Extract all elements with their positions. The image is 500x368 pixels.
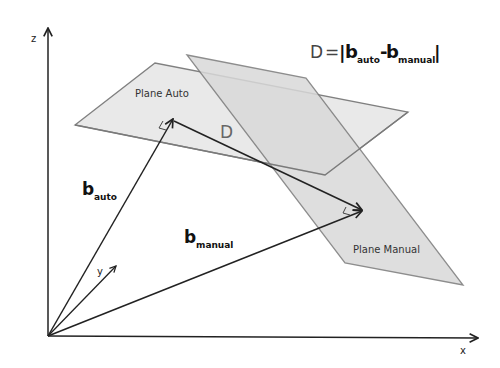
b-manual-vector: [48, 211, 362, 336]
equation-equals: =: [325, 42, 339, 62]
z-axis-label: z: [31, 33, 36, 44]
plane-auto-label: Plane Auto: [135, 88, 189, 99]
b-manual-label: b: [184, 227, 196, 247]
plane-manual: [187, 55, 463, 285]
b-manual-subscript: manual: [196, 240, 233, 250]
equation-lhs: D: [310, 42, 323, 62]
x-axis: [48, 336, 478, 338]
vector-plane-diagram: z x y Plane Auto Plane Manual b auto b m…: [0, 0, 500, 368]
plane-manual-label: Plane Manual: [353, 244, 420, 255]
equation-bar-right: |: [434, 42, 441, 63]
b-auto-label: b: [82, 179, 94, 199]
equation-b-manual-subscript: manual: [398, 55, 435, 65]
y-axis-label: y: [97, 266, 103, 277]
distance-equation: D = | b auto - b manual |: [310, 41, 441, 65]
d-label: D: [220, 122, 233, 142]
b-auto-subscript: auto: [94, 192, 117, 202]
b-auto-vector: [48, 119, 173, 336]
equation-b-auto-subscript: auto: [357, 55, 380, 65]
x-axis-label: x: [460, 345, 466, 356]
